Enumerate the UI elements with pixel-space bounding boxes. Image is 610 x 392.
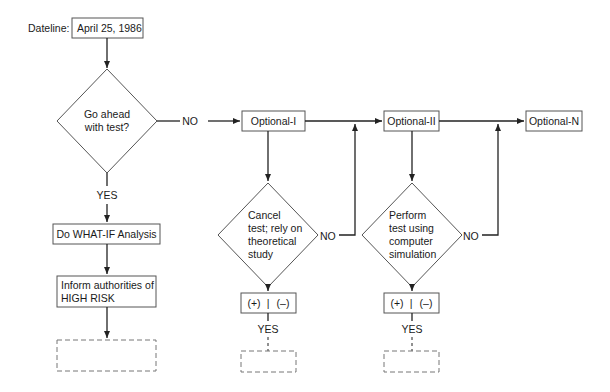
decision-go-ahead: Go ahead with test? <box>57 69 157 173</box>
placeholder-box-optional-ii <box>384 351 439 372</box>
yes-label-optional-i: YES <box>257 323 278 335</box>
result-plus: (+) <box>390 297 403 309</box>
decision-cancel-test-line-2: test; rely on <box>248 222 302 234</box>
result-box-optional-ii: (+) | (–) <box>384 293 439 313</box>
inform-authorities-box: Inform authorities of HIGH RISK <box>57 276 156 307</box>
inform-authorities-line-1: Inform authorities of <box>61 279 154 291</box>
arrow-connector <box>482 124 498 235</box>
optional-n-box: Optional-N <box>526 111 582 131</box>
decision-cancel-test-line-1: Cancel <box>248 209 281 221</box>
result-separator: | <box>410 297 413 309</box>
placeholder-box-left <box>57 340 156 371</box>
optional-ii-label: Optional-II <box>387 115 435 127</box>
flowchart: Dateline: April 25, 1986 Go ahead with t… <box>0 0 610 392</box>
decision-go-ahead-line-2: with test? <box>84 121 130 133</box>
optional-ii-box: Optional-II <box>384 111 439 131</box>
decision-cancel-test-line-4: study <box>248 248 274 260</box>
result-plus: (+) <box>247 297 260 309</box>
result-minus: (–) <box>420 297 433 309</box>
result-minus: (–) <box>277 297 290 309</box>
dateline-box: April 25, 1986 <box>72 18 143 38</box>
decision-simulation-line-1: Perform <box>389 209 427 221</box>
optional-i-box: Optional-I <box>242 111 305 131</box>
result-separator: | <box>267 297 270 309</box>
yes-label-main: YES <box>96 189 117 201</box>
decision-go-ahead-line-1: Go ahead <box>84 108 130 120</box>
dateline-label: Dateline: <box>28 22 69 34</box>
decision-simulation-line-3: computer <box>389 235 433 247</box>
whatif-analysis-label: Do WHAT-IF Analysis <box>56 228 156 240</box>
optional-i-label: Optional-I <box>251 115 297 127</box>
placeholder-box-optional-i <box>241 351 296 372</box>
inform-authorities-line-2: HIGH RISK <box>61 292 115 304</box>
no-label-main: NO <box>182 115 198 127</box>
yes-label-optional-ii: YES <box>401 323 422 335</box>
decision-cancel-test-line-3: theoretical <box>248 235 296 247</box>
no-label-optional-ii: NO <box>463 230 479 242</box>
decision-cancel-test: Cancel test; rely on theoretical study <box>218 183 318 287</box>
decision-simulation-line-4: simulation <box>389 248 436 260</box>
no-label-optional-i: NO <box>320 230 336 242</box>
whatif-analysis-box: Do WHAT-IF Analysis <box>53 224 160 244</box>
decision-simulation-line-2: test using <box>389 222 434 234</box>
optional-n-label: Optional-N <box>529 115 579 127</box>
arrow-connector <box>339 124 355 235</box>
result-box-optional-i: (+) | (–) <box>241 293 296 313</box>
decision-computer-simulation: Perform test using computer simulation <box>362 183 462 287</box>
dateline-date: April 25, 1986 <box>77 22 142 34</box>
